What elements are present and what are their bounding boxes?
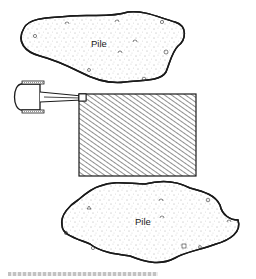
pile-bottom-label: Pile bbox=[135, 216, 151, 227]
excavation-area bbox=[79, 94, 196, 176]
excavator-icon bbox=[15, 81, 87, 113]
pile-top-label: Pile bbox=[91, 38, 107, 49]
pile-bottom: Pile bbox=[62, 181, 239, 262]
pile-top: Pile bbox=[21, 12, 184, 83]
caption-fragment bbox=[8, 272, 158, 276]
excavation-diagram: Pile Pile bbox=[0, 0, 256, 279]
